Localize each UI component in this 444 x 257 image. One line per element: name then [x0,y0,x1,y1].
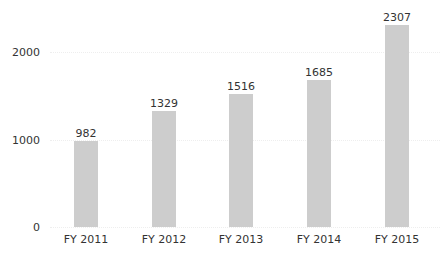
x-tick-label: FY 2015 [362,233,432,246]
gridline-0 [50,227,440,228]
bar [152,111,176,227]
bar-value-label: 1516 [211,80,271,93]
bar [74,141,98,227]
y-tick-label: 0 [33,221,40,234]
x-tick-label: FY 2014 [284,233,354,246]
bar-value-label: 982 [56,127,116,140]
x-tick-label: FY 2013 [206,233,276,246]
bar-value-label: 1329 [134,97,194,110]
bar [307,80,331,227]
bar [229,94,253,227]
x-tick-label: FY 2011 [51,233,121,246]
y-tick-label: 2000 [12,46,40,59]
gridline-2000 [50,52,440,53]
bar [385,25,409,227]
bar-value-label: 2307 [367,11,427,24]
x-tick-label: FY 2012 [129,233,199,246]
bar-chart: 2000 1000 0 982 1329 1516 1685 2307 FY 2… [0,0,444,257]
bar-value-label: 1685 [289,66,349,79]
y-tick-label: 1000 [12,134,40,147]
